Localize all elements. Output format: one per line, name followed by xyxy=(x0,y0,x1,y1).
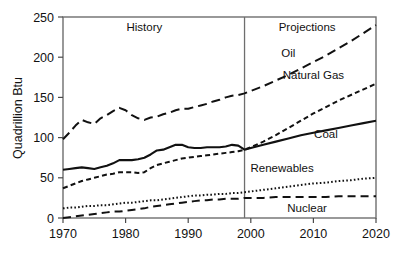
x-tick-label: 1970 xyxy=(49,227,77,241)
y-tick-label: 250 xyxy=(33,11,54,25)
y-tick-label: 50 xyxy=(40,171,54,185)
y-tick-label: 100 xyxy=(33,131,54,145)
region-label-history: History xyxy=(126,21,162,33)
series-label-nuclear: Nuclear xyxy=(287,202,327,214)
x-tick-label: 1980 xyxy=(112,227,140,241)
x-tick-label: 2000 xyxy=(237,227,265,241)
x-tick-label: 1990 xyxy=(174,227,202,241)
y-tick-label: 0 xyxy=(47,212,54,226)
chart-canvas: 050100150200250 197019801990200020102020… xyxy=(0,0,395,253)
series-label-oil: Oil xyxy=(281,47,295,59)
region-label-projections: Projections xyxy=(279,21,336,33)
y-axis-title-text: Quadrillion Btu xyxy=(11,77,25,159)
chart-background xyxy=(0,0,395,253)
y-tick-label: 200 xyxy=(33,51,54,65)
x-tick-label: 2020 xyxy=(362,227,390,241)
x-tick-label: 2010 xyxy=(299,227,327,241)
y-tick-label: 150 xyxy=(33,91,54,105)
y-axis-title: Quadrillion Btu xyxy=(11,77,25,159)
energy-consumption-chart-figure: 050100150200250 197019801990200020102020… xyxy=(0,0,395,253)
series-label-coal: Coal xyxy=(314,128,338,140)
series-label-renewables: Renewables xyxy=(250,162,314,174)
series-label-natural-gas: Natural Gas xyxy=(283,69,345,81)
